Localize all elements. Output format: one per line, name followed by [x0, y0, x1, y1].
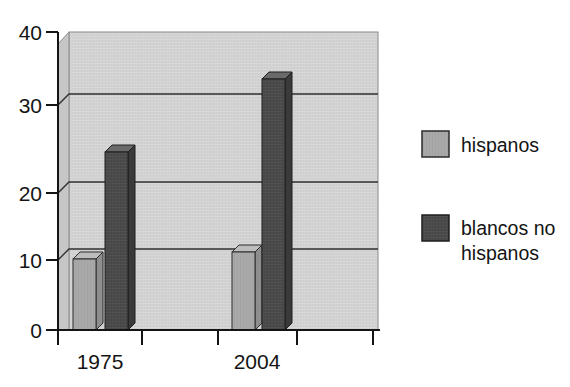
bar-chart-figure: 40 30 20 10 0 1975 2004 hispanos blancos…: [0, 0, 570, 387]
legend-item-hispanos[interactable]: hispanos: [422, 131, 539, 157]
y-tick-label-20: 20: [19, 182, 42, 205]
legend-label-blancos-no-hispanos-line1: blancos no: [461, 217, 555, 239]
bar-2004-blancos-no-hispanos: [262, 72, 292, 330]
legend-swatch-hispanos: [422, 131, 449, 157]
y-tick-label-10: 10: [19, 249, 42, 272]
x-category-label-1975: 1975: [77, 350, 124, 373]
bar-side-face: [255, 245, 262, 330]
bar-2004-hispanos: [232, 245, 262, 330]
bar-front-face: [105, 152, 128, 330]
chart-legend: hispanos blancos no hispanos: [422, 131, 555, 264]
bar-side-face: [285, 72, 292, 330]
bar-front-face: [73, 259, 96, 330]
chart-canvas: 40 30 20 10 0 1975 2004 hispanos blancos…: [0, 0, 570, 387]
legend-label-hispanos: hispanos: [461, 134, 539, 156]
legend-item-blancos-no-hispanos[interactable]: blancos no hispanos: [422, 215, 555, 264]
bar-side-face: [96, 252, 103, 330]
y-tick-label-0: 0: [30, 319, 42, 342]
legend-label-blancos-no-hispanos-line2: hispanos: [461, 242, 539, 264]
bar-1975-blancos-no-hispanos: [105, 145, 135, 330]
bar-1975-hispanos: [73, 252, 103, 330]
x-category-label-2004: 2004: [234, 350, 281, 373]
legend-swatch-blancos-no-hispanos: [422, 215, 449, 241]
bar-side-face: [128, 145, 135, 330]
bar-front-face: [232, 252, 255, 330]
y-tick-label-30: 30: [19, 94, 42, 117]
y-axis-tick-labels: 40 30 20 10 0: [19, 21, 42, 342]
plot-left-wall: [58, 32, 69, 330]
y-tick-label-40: 40: [19, 21, 42, 44]
x-axis-category-labels: 1975 2004: [77, 350, 281, 373]
bar-front-face: [262, 79, 285, 330]
